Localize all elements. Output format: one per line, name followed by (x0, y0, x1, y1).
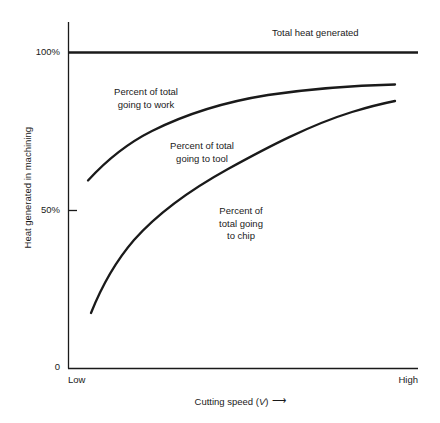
annotation-percent-to-work: Percent of totalgoing to work (86, 86, 206, 111)
annotation-chip-line-1: Percent of (219, 205, 262, 216)
y-tick-label-100: 100% (18, 46, 60, 58)
annotation-chip-line-3: to chip (227, 230, 255, 241)
x-axis-title: Cutting speed (V)⟶ (150, 396, 330, 408)
annotation-total-heat-generated: Total heat generated (272, 27, 422, 40)
y-axis-title: Heat generated in machining (22, 98, 34, 278)
y-tick-label-0: 0 (18, 361, 60, 373)
x-tick-label-high: High (372, 374, 418, 386)
annotation-percent-to-chip: Percent oftotal goingto chip (196, 205, 286, 243)
annotation-percent-to-tool: Percent of totalgoing to tool (142, 140, 262, 165)
annotation-tool-line-2: going to tool (176, 153, 228, 164)
annotation-work-line-2: going to work (118, 99, 175, 110)
heat-generation-chart: 100% 50% 0 Low High Cutting speed (V)⟶ H… (0, 0, 440, 423)
annotation-tool-line-1: Percent of total (170, 140, 234, 151)
annotation-chip-line-2: total going (219, 218, 263, 229)
annotation-work-line-1: Percent of total (114, 86, 178, 97)
x-axis-title-suffix: ) (265, 396, 268, 407)
x-axis-title-prefix: Cutting speed ( (195, 396, 259, 407)
right-arrow-icon: ⟶ (272, 395, 285, 407)
x-tick-label-low: Low (68, 374, 85, 386)
